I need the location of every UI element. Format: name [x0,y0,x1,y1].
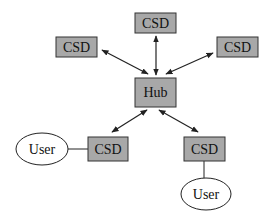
node-csd-top: CSD [135,13,176,33]
edge-hub-csd-right [166,53,213,74]
network-diagram: CSD CSD CSD Hub CSD CSD User User [0,0,273,223]
node-hub: Hub [135,78,176,107]
node-user-left: User [16,133,68,165]
csd-top-label: CSD [142,16,169,31]
csd-bottom-left-label: CSD [94,142,121,157]
user-bottom-label: User [193,187,220,202]
hub-label: Hub [143,85,167,100]
edge-hub-csd-bottom-right [159,110,198,132]
node-csd-right: CSD [217,37,258,57]
edge-hub-csd-bottom-left [112,110,147,132]
edge-hub-csd-left [102,50,148,74]
csd-bottom-right-label: CSD [191,142,218,157]
user-left-label: User [29,142,56,157]
node-csd-bottom-right: CSD [184,137,225,161]
csd-left-label: CSD [63,40,90,55]
node-user-bottom: User [181,178,231,210]
node-csd-left: CSD [56,37,97,57]
node-csd-bottom-left: CSD [88,137,128,161]
csd-right-label: CSD [224,40,251,55]
